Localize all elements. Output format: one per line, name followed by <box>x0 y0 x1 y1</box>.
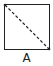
square-diagram <box>0 0 53 52</box>
corner-dot-bottom-right <box>48 48 51 51</box>
figure-label: A <box>0 51 53 65</box>
dashed-diagonal <box>5 5 49 49</box>
corner-dot-top-left <box>4 4 7 7</box>
